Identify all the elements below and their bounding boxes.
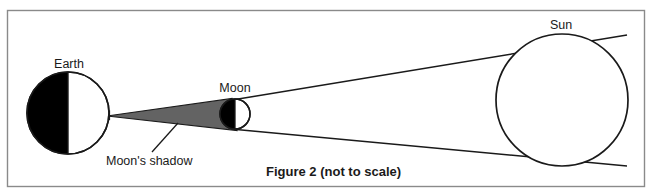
earth-body-group bbox=[27, 72, 109, 154]
figure-caption: Figure 2 (not to scale) bbox=[266, 164, 401, 179]
moon-body-group bbox=[220, 99, 250, 129]
moons-shadow-label: Moon's shadow bbox=[106, 154, 193, 168]
sun-label: Sun bbox=[550, 18, 572, 32]
moon-label: Moon bbox=[219, 81, 250, 95]
earth-label: Earth bbox=[54, 57, 84, 71]
eclipse-diagram: Earth Moon Sun Moon's shadow Figure 2 (n… bbox=[0, 0, 656, 195]
figure-container: Earth Moon Sun Moon's shadow Figure 2 (n… bbox=[0, 0, 656, 195]
sun-circle bbox=[496, 34, 628, 166]
